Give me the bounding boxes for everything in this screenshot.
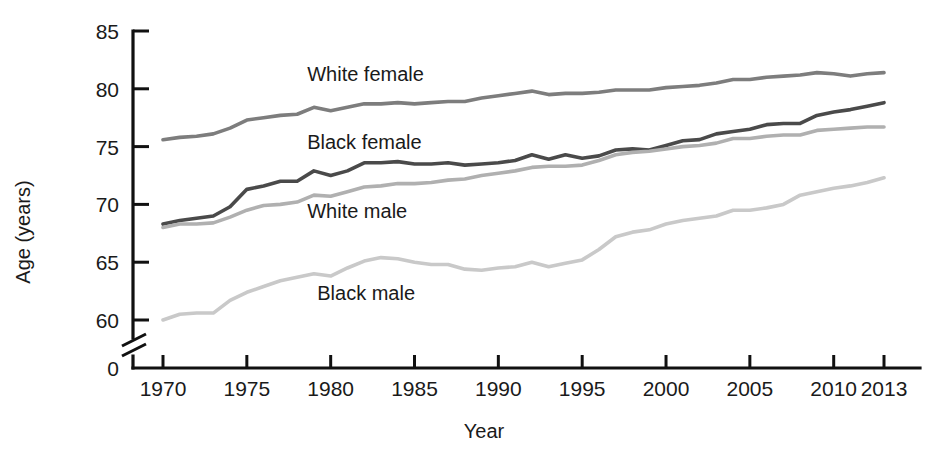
chart-canvas: 0606570758085 19701975198019851990199520…	[0, 0, 941, 466]
x-tick-label-1995: 1995	[559, 377, 606, 400]
x-tick-label-2010: 2010	[810, 377, 857, 400]
x-tick-label-1975: 1975	[223, 377, 270, 400]
data-series-group	[163, 73, 884, 320]
x-tick-label-2000: 2000	[643, 377, 690, 400]
x-tick-label-2005: 2005	[727, 377, 774, 400]
y-tick-label-80: 80	[96, 78, 119, 101]
y-tick-label-75: 75	[96, 136, 119, 159]
y-axis-ticks	[133, 31, 149, 320]
series-label-white-male: White male	[307, 200, 407, 222]
y-tick-label-85: 85	[96, 20, 119, 43]
y-axis-tick-labels: 0606570758085	[96, 20, 119, 380]
series-line-white-male	[163, 127, 884, 228]
x-tick-label-2013: 2013	[861, 377, 908, 400]
y-tick-label-65: 65	[96, 251, 119, 274]
x-axis-tick-labels: 1970197519801985199019952000200520102013	[140, 377, 908, 400]
y-tick-label-60: 60	[96, 309, 119, 332]
x-tick-label-1970: 1970	[140, 377, 187, 400]
x-tick-label-1980: 1980	[307, 377, 354, 400]
x-tick-label-1985: 1985	[391, 377, 438, 400]
axes	[122, 31, 920, 368]
series-label-white-female: White female	[307, 63, 424, 85]
series-label-black-male: Black male	[317, 282, 415, 304]
y-axis-title: Age (years)	[12, 180, 34, 283]
series-line-black-male	[163, 178, 884, 320]
x-axis-ticks	[163, 355, 884, 368]
y-tick-label-0: 0	[107, 357, 119, 380]
x-axis-title: Year	[464, 420, 505, 442]
series-label-black-female: Black female	[307, 131, 422, 153]
y-tick-label-70: 70	[96, 193, 119, 216]
x-tick-label-1990: 1990	[475, 377, 522, 400]
life-expectancy-line-chart: 0606570758085 19701975198019851990199520…	[0, 0, 941, 466]
series-line-white-female	[163, 73, 884, 140]
